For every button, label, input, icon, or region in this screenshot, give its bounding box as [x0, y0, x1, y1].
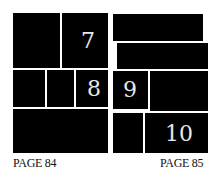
panel: [13, 109, 108, 153]
panel-8: 8: [76, 70, 108, 107]
panel: [113, 113, 143, 153]
panel-number: 10: [165, 123, 193, 145]
page-label: PAGE 84: [13, 156, 56, 171]
panel-number: 8: [87, 78, 101, 100]
panel-9: 9: [113, 71, 148, 109]
panel: [150, 71, 208, 111]
panel: [113, 14, 203, 41]
panel-7: 7: [62, 13, 108, 68]
panel-number: 7: [81, 30, 95, 52]
panel: [13, 70, 45, 107]
panel: [13, 13, 60, 68]
panel: [47, 70, 74, 107]
panel-number: 9: [123, 79, 137, 101]
panel: [117, 43, 208, 69]
panel-10: 10: [145, 113, 208, 153]
page-label: PAGE 85: [160, 156, 203, 171]
